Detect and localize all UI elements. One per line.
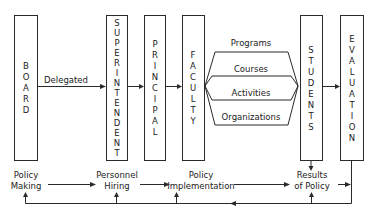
step-policy-implementation-line1: Policy: [189, 170, 213, 180]
box-superintendent: SUPERINTENDENT: [107, 16, 128, 161]
step-policy-making-line1: Policy: [14, 170, 38, 180]
arrow-hiring-to-implementation: [140, 182, 170, 187]
arrow-results-to-evaluation-line: [338, 182, 351, 187]
arrow-students-to-evaluation: [323, 84, 340, 89]
channel-organizations: Organizations: [222, 112, 281, 122]
box-principal-label: PRINCIPAL: [152, 39, 158, 137]
step-results-of-policy-line2: of Policy: [294, 181, 329, 191]
channel-courses: Courses: [234, 64, 269, 74]
arrow-superintendent-to-principal: [128, 84, 144, 89]
step-results-of-policy-line1: Results: [297, 170, 328, 180]
step-policy-implementation-line2: Implementation: [167, 181, 235, 191]
box-board-label: BOARD: [23, 61, 30, 115]
box-board: BOARD: [15, 16, 38, 161]
arrow-making-to-hiring: [48, 182, 96, 187]
channel-activities: Activities: [232, 88, 271, 98]
box-evaluation-label: EVALUATION: [348, 34, 355, 143]
step-personnel-hiring-line1: Personnel: [96, 170, 138, 180]
box-principal: PRINCIPAL: [145, 16, 166, 161]
arrow-implementation-to-results: [234, 182, 290, 187]
box-faculty: FACULTY: [183, 16, 205, 161]
box-evaluation: EVALUATION: [341, 16, 364, 161]
channel-programs: Programs: [231, 38, 272, 48]
policy-flow-diagram: BOARD SUPERINTENDENT PRINCIPAL FACULTY S…: [0, 0, 374, 216]
step-personnel-hiring-line2: Hiring: [104, 181, 129, 191]
delegated-label: Delegated: [44, 75, 88, 85]
box-students: STUDENTS: [301, 16, 323, 161]
box-faculty-label: FACULTY: [189, 50, 196, 126]
arrow-principal-to-faculty: [166, 84, 182, 89]
step-policy-making-line2: Making: [11, 181, 42, 191]
